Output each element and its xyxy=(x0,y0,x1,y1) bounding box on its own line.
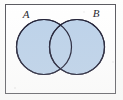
set-label-a: A xyxy=(22,8,30,20)
venn-diagram-canvas: A B xyxy=(0,0,123,100)
set-label-b: B xyxy=(93,7,100,19)
venn-diagram-figure: A B xyxy=(0,0,123,100)
